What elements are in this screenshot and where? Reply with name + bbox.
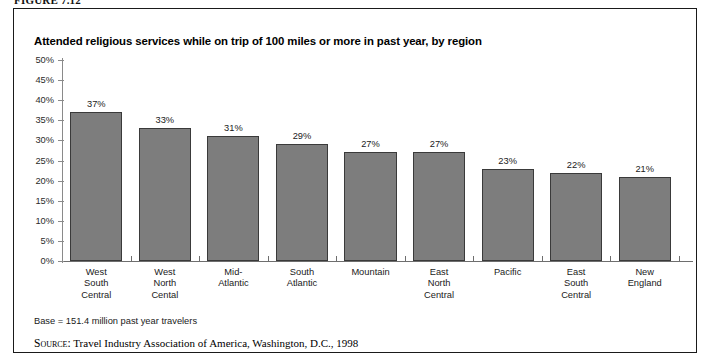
y-axis-label: 50% [20,55,54,65]
bar[interactable] [413,152,465,261]
bar[interactable] [207,136,259,261]
source-text: Travel Industry Association of America, … [73,337,358,349]
bar[interactable] [139,128,191,261]
y-axis-label: 0% [20,256,54,266]
y-axis-tick [58,201,64,202]
x-axis-category-line: England [601,278,689,289]
x-axis-line [62,261,693,262]
y-axis-tick [58,161,64,162]
bar[interactable] [482,169,534,261]
bar-value-label: 37% [62,99,131,109]
bar-value-label: 29% [268,131,337,141]
y-axis-tick [58,221,64,222]
x-axis-tick [405,256,406,262]
y-axis-label: 35% [20,115,54,125]
y-axis-tick [58,80,64,81]
y-axis-label: 20% [20,176,54,186]
figure-frame: Attended religious services while on tri… [13,8,697,353]
x-axis-tick [473,256,474,262]
bar-value-label: 21% [610,164,679,174]
chart-title: Attended religious services while on tri… [34,35,482,47]
bar[interactable] [344,152,396,261]
y-axis-tick [58,261,64,262]
y-axis-label: 5% [20,236,54,246]
y-axis-label: 40% [20,95,54,105]
bar[interactable] [276,144,328,261]
y-axis-tick [58,60,64,61]
x-axis-tick [542,256,543,262]
bar[interactable] [619,177,671,261]
bar-value-label: 23% [473,156,542,166]
bar-value-label: 22% [542,160,611,170]
y-axis-tick [58,140,64,141]
x-axis-category-line: New [601,267,689,278]
x-axis-category-line: North [395,278,483,289]
x-axis-category-line: Atlantic [258,278,346,289]
base-note: Base = 151.4 million past year travelers [34,316,197,326]
x-axis-tick [610,256,611,262]
y-axis-tick [58,181,64,182]
y-axis-tick [58,241,64,242]
source-label: Source: [34,337,71,349]
bar-value-label: 31% [199,123,268,133]
x-axis-category-line: Central [532,290,620,301]
y-axis-label: 25% [20,156,54,166]
figure-caption: FIGURE 7.12 [14,0,81,6]
bar[interactable] [70,112,122,261]
x-axis-tick [336,256,337,262]
y-axis-tick [58,120,64,121]
x-axis-tick [268,256,269,262]
y-axis-label: 30% [20,135,54,145]
bar[interactable] [550,173,602,261]
bar-value-label: 27% [405,139,474,149]
x-axis-tick [199,256,200,262]
x-axis-category-line: Cental [121,290,209,301]
x-axis-category-label: NewEngland [601,267,689,290]
y-axis-label: 10% [20,216,54,226]
bar-value-label: 27% [336,139,405,149]
source-line: Source: Travel Industry Association of A… [34,337,358,349]
y-axis-label: 15% [20,196,54,206]
bar-value-label: 33% [131,115,200,125]
y-axis-label: 45% [20,75,54,85]
x-axis-tick [131,256,132,262]
x-axis-category-line: Central [395,290,483,301]
x-axis-tick [679,256,680,262]
